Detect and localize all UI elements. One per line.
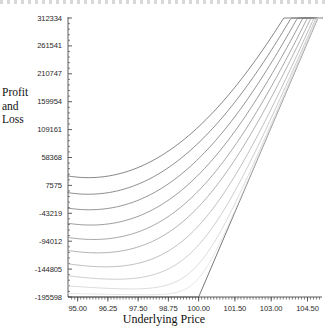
- x-axis-title: Underlying Price: [0, 312, 328, 327]
- series-line-t9: [68, 18, 322, 194]
- chart-figure: Profit and Loss Underlying Price 3123342…: [0, 0, 328, 332]
- series-line-t8: [68, 18, 322, 210]
- y-tick-label: -43219: [10, 209, 62, 218]
- y-tick-label: 159954: [10, 97, 62, 106]
- x-tick-label: 101.50: [215, 304, 255, 313]
- x-tick-label: 103.00: [251, 304, 291, 313]
- series-line-t1: [68, 18, 322, 295]
- x-tick-label: 104.50: [287, 304, 327, 313]
- y-tick-label: 210747: [10, 69, 62, 78]
- y-tick-label: 7575: [10, 181, 62, 190]
- y-tick-label: 58368: [10, 153, 62, 162]
- y-tick-label: 109161: [10, 125, 62, 134]
- x-tick-label: 100.00: [179, 304, 219, 313]
- y-tick-label: -94012: [10, 237, 62, 246]
- series-line-t4: [68, 18, 322, 267]
- y-tick-label: -195598: [10, 293, 62, 302]
- y-axis-title: Profit and Loss: [2, 86, 50, 127]
- y-tick-label: -144805: [10, 265, 62, 274]
- y-tick-label: 312334: [10, 14, 62, 23]
- y-tick-label: 261541: [10, 41, 62, 50]
- series-line-t3: [68, 18, 322, 279]
- series-line-t6: [68, 18, 322, 239]
